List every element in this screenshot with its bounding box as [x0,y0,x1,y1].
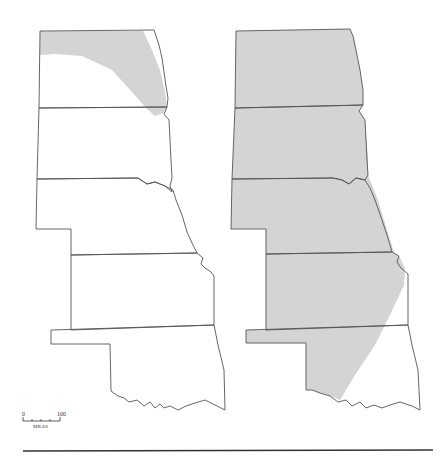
range-maps: 0 100 MILES [0,0,448,462]
scale-unit-label: MILES [33,424,48,429]
left-oklahoma [51,325,225,410]
left-nebraska [36,178,197,255]
left-shaded-range [40,31,167,116]
left-south-dakota [37,107,172,192]
scale-start-label: 0 [22,411,25,417]
scale-end-label: 100 [57,411,66,417]
left-map [36,30,225,410]
left-kansas [71,253,214,330]
bottom-rule [23,450,433,451]
right-shaded-range [231,29,405,400]
scale-bar: 0 100 MILES [22,411,66,429]
right-map [231,29,420,410]
